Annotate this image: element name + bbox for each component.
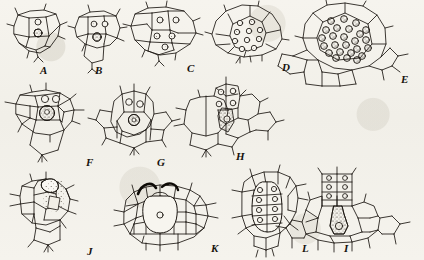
figure-k-drawing bbox=[114, 183, 218, 251]
figure-d-drawing bbox=[205, 1, 289, 63]
figure-label-l: L bbox=[302, 243, 309, 254]
figure-g-drawing bbox=[88, 84, 180, 155]
plate-drawing bbox=[0, 0, 424, 260]
figure-c-drawing bbox=[123, 1, 203, 66]
figure-label-j: J bbox=[87, 246, 93, 257]
figure-label-a: A bbox=[40, 65, 48, 76]
figure-label-i: I bbox=[344, 243, 348, 254]
figure-label-b: B bbox=[95, 65, 103, 76]
illustration-plate: A B C D E F G H J K L I bbox=[0, 0, 424, 260]
figure-h-drawing bbox=[174, 77, 284, 157]
figure-label-k: K bbox=[211, 243, 219, 254]
figure-b-drawing bbox=[68, 5, 127, 73]
figure-label-h: H bbox=[236, 151, 245, 162]
figure-j-drawing bbox=[10, 172, 78, 252]
figure-f-drawing bbox=[5, 83, 84, 162]
figure-e-drawing bbox=[278, 0, 408, 86]
figure-label-g: G bbox=[157, 157, 165, 168]
figure-label-e: E bbox=[401, 74, 409, 85]
figure-label-c: C bbox=[187, 63, 195, 74]
figure-label-d: D bbox=[282, 62, 290, 73]
figure-l-drawing bbox=[232, 165, 308, 257]
figure-label-f: F bbox=[86, 157, 94, 168]
figure-a-drawing bbox=[7, 4, 67, 62]
